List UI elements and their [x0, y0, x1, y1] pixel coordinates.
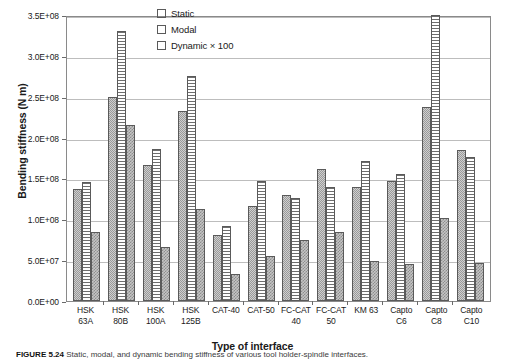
bar-group: [69, 17, 104, 301]
bar-dynamic-100: [440, 218, 449, 301]
bar-static: [248, 206, 257, 301]
bar-group: [139, 17, 174, 301]
bar-dynamic-100: [196, 209, 205, 301]
figure-caption-label: FIGURE 5.24: [16, 350, 64, 359]
y-axis-tick-2: 2.5E+08: [28, 93, 59, 103]
bar-static: [387, 181, 396, 301]
x-axis-tick-8: KM 63: [349, 305, 384, 339]
bar-static: [352, 187, 361, 301]
bar-dynamic-100: [335, 232, 344, 301]
y-axis-tick-3: 2.0E+08: [28, 134, 59, 144]
bar-dynamic-100: [300, 240, 309, 301]
legend-swatch-icon: [157, 41, 166, 50]
bar-dynamic-100: [370, 261, 379, 301]
bar-modal: [187, 76, 196, 301]
bar-static: [178, 111, 187, 301]
x-axis-tick-labels: HSK 63AHSK 80BHSK 100AHSK 125BCAT-40CAT-…: [66, 305, 491, 339]
bar-static: [282, 195, 291, 301]
legend-label: Dynamic × 100: [171, 40, 233, 51]
bar-static: [457, 150, 466, 301]
bar-static: [317, 169, 326, 301]
bar-modal: [326, 187, 335, 301]
x-axis-tick-10: Capto C8: [419, 305, 454, 339]
y-axis-tick-0: 3.5E+08: [28, 11, 59, 21]
bar-static: [143, 165, 152, 301]
y-axis-tickmark-7: [62, 302, 66, 303]
y-axis-tick-labels: 3.5E+083.0E+082.5E+082.0E+081.5E+081.0E+…: [0, 16, 62, 302]
bar-dynamic-100: [161, 247, 170, 301]
y-axis-tick-7: 0.0E+00: [28, 297, 59, 307]
bar-group: [418, 17, 453, 301]
bar-static: [213, 235, 222, 301]
bar-modal: [222, 226, 231, 301]
x-axis-tick-5: CAT-50: [243, 305, 278, 339]
bar-group: [279, 17, 314, 301]
y-axis-tick-4: 1.5E+08: [28, 174, 59, 184]
figure-container: Bending stiffness (N m) 3.5E+083.0E+082.…: [0, 0, 505, 364]
y-axis-tick-1: 3.0E+08: [28, 52, 59, 62]
x-axis-tick-0: HSK 63A: [68, 305, 103, 339]
legend-item: Dynamic × 100: [157, 40, 233, 51]
x-axis-tick-3: HSK 125B: [173, 305, 208, 339]
bar-modal: [257, 181, 266, 301]
bar-dynamic-100: [91, 232, 100, 301]
bar-dynamic-100: [475, 263, 484, 301]
bar-group: [174, 17, 209, 301]
bar-dynamic-100: [126, 125, 135, 301]
bar-dynamic-100: [231, 274, 240, 301]
bar-modal: [82, 182, 91, 301]
bar-modal: [466, 157, 475, 301]
bar-group: [244, 17, 279, 301]
bar-group: [209, 17, 244, 301]
bar-group: [348, 17, 383, 301]
bar-group: [453, 17, 488, 301]
x-axis-tick-2: HSK 100A: [138, 305, 173, 339]
x-axis-tick-7: FC-CAT 50: [314, 305, 349, 339]
legend-item: Modal: [157, 24, 233, 35]
y-axis-tick-6: 5.0E+07: [28, 256, 59, 266]
bar-group: [383, 17, 418, 301]
bar-group: [104, 17, 139, 301]
plot-area: [66, 16, 491, 302]
x-axis-tick-6: FC-CAT 40: [278, 305, 313, 339]
bar-dynamic-100: [266, 256, 275, 301]
x-axis-tick-1: HSK 80B: [103, 305, 138, 339]
bar-static: [422, 107, 431, 301]
y-axis-tick-5: 1.0E+08: [28, 215, 59, 225]
legend-swatch-icon: [157, 25, 166, 34]
bar-modal: [396, 174, 405, 301]
bar-static: [73, 189, 82, 301]
legend-item: Static: [157, 8, 233, 19]
legend: StaticModalDynamic × 100: [157, 8, 233, 51]
figure-caption-text: Static, modal, and dynamic bending stiff…: [66, 350, 368, 359]
bar-groups: [67, 17, 490, 301]
bar-modal: [117, 31, 126, 301]
bar-dynamic-100: [405, 264, 414, 301]
x-axis-tick-9: Capto C6: [384, 305, 419, 339]
legend-label: Modal: [171, 24, 196, 35]
legend-label: Static: [171, 8, 194, 19]
bar-static: [108, 97, 117, 301]
figure-caption: FIGURE 5.24 Static, modal, and dynamic b…: [16, 350, 493, 363]
bar-modal: [152, 149, 161, 301]
x-axis-tick-4: CAT-40: [208, 305, 243, 339]
bar-group: [313, 17, 348, 301]
bar-modal: [431, 15, 440, 301]
bar-modal: [361, 161, 370, 301]
x-axis-tick-11: Capto C10: [454, 305, 489, 339]
bar-modal: [291, 198, 300, 301]
legend-swatch-icon: [157, 9, 166, 18]
